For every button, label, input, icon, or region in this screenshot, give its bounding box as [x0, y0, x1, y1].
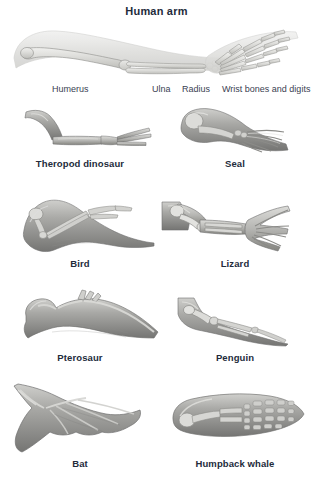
specimen-illustration-lizard — [160, 196, 310, 254]
part-label-wrist-bones-and-digits: Wrist bones and digits — [222, 84, 310, 94]
specimen-illustration-bird — [16, 188, 166, 256]
specimen-illustration-theropod-dinosaur — [22, 106, 157, 158]
specimen-caption-theropod-dinosaur: Theropod dinosaur — [0, 158, 160, 169]
specimen-caption-lizard: Lizard — [160, 258, 310, 269]
part-label-humerus: Humerus — [52, 84, 89, 94]
specimen-illustration-bat — [10, 378, 150, 458]
part-label-radius: Radius — [182, 84, 210, 94]
homologous-limbs-figure: Human arm — [0, 0, 313, 478]
page-title: Human arm — [0, 5, 313, 17]
specimen-illustration-pterosaur — [18, 286, 170, 352]
specimen-illustration-penguin — [176, 296, 296, 346]
specimen-caption-seal: Seal — [160, 158, 310, 169]
specimen-caption-pterosaur: Pterosaur — [0, 352, 160, 363]
part-label-ulna: Ulna — [152, 84, 171, 94]
specimen-illustration-seal — [168, 104, 298, 160]
specimen-illustration-human-arm — [8, 18, 308, 80]
specimen-caption-bat: Bat — [0, 458, 160, 469]
specimen-caption-humpback-whale: Humpback whale — [160, 458, 310, 469]
specimen-caption-penguin: Penguin — [160, 352, 310, 363]
specimen-illustration-humpback-whale — [158, 386, 308, 452]
cropped-caption-sliver — [0, 474, 313, 478]
specimen-caption-bird: Bird — [0, 258, 160, 269]
